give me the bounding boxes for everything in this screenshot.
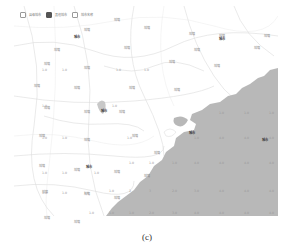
town-label: 城镇 xyxy=(44,62,50,66)
town-label: 城镇 xyxy=(54,48,60,52)
city-label: 城市 xyxy=(219,36,225,41)
sea-grid-value: 1.0 xyxy=(244,111,249,115)
sea-grid-value: 2.0 xyxy=(149,211,154,215)
town-label: 城镇 xyxy=(44,216,50,220)
map-legend: 县级城市 其他城市 城市名称 xyxy=(20,12,95,18)
land-grid-value: 1.0 xyxy=(127,136,132,140)
land-grid-value: 1.0 xyxy=(84,191,89,195)
city-label: 城市 xyxy=(101,108,107,113)
city-label: 城市 xyxy=(189,130,195,135)
map-canvas[interactable] xyxy=(14,6,278,216)
town-label: 城镇 xyxy=(114,196,120,200)
land-grid-value: 1.0 xyxy=(94,171,99,175)
town-label: 城镇 xyxy=(169,60,175,64)
land-grid-value: 1.0 xyxy=(62,171,67,175)
town-label: 城镇 xyxy=(154,151,160,155)
city-label: 城市 xyxy=(74,34,80,39)
town-label: 城镇 xyxy=(84,110,90,114)
sea-grid-value: 4.0 xyxy=(269,189,274,193)
sea-grid-value: 1.0 xyxy=(109,211,114,215)
land-grid-value: 1.0 xyxy=(62,191,67,195)
sea-grid-value: 2.0 xyxy=(172,189,177,193)
sea-grid-value: 4.0 xyxy=(219,211,224,215)
town-label: 城镇 xyxy=(114,18,120,22)
map-geometry xyxy=(14,6,278,216)
sea-grid-value: 3 xyxy=(149,189,151,193)
land-grid-value: 1.0 xyxy=(62,68,67,72)
town-label: 城镇 xyxy=(84,138,90,142)
sea-grid-value: 4.0 xyxy=(194,211,199,215)
land-grid-value: 1.0 xyxy=(42,171,47,175)
figure-caption: (c) xyxy=(0,232,294,242)
sea-grid-value: 3.0 xyxy=(194,189,199,193)
town-label: 城镇 xyxy=(144,26,150,30)
land-grid-value: 1.0 xyxy=(42,104,47,108)
sea-grid-value: 1.0 xyxy=(269,111,274,115)
sea-grid-value: 4.0 xyxy=(269,161,274,165)
sea-grid-value: 1.0 xyxy=(129,161,134,165)
sea-grid-value: 1.0 xyxy=(149,161,154,165)
land-grid-value: 1.0 xyxy=(62,136,67,140)
legend-label-county: 县级城市 xyxy=(29,13,41,17)
sea-grid-value: 4.0 xyxy=(244,211,249,215)
land-grid-value: 1.0 xyxy=(42,136,47,140)
land-grid-value: 1.0 xyxy=(112,104,117,108)
sea-grid-value: 2 xyxy=(129,189,131,193)
sea-area xyxy=(106,68,278,216)
legend-checkbox-name[interactable] xyxy=(72,12,78,18)
sea-grid-value: 4.0 xyxy=(219,161,224,165)
town-label: 城镇 xyxy=(84,66,90,70)
sea-grid-value: 4.0 xyxy=(219,136,224,140)
town-label: 城镇 xyxy=(194,48,200,52)
town-label: 城镇 xyxy=(74,220,80,224)
city-label: 城市 xyxy=(86,164,92,169)
sea-grid-value: 1.0 xyxy=(89,211,94,215)
sea-grid-value: 4.0 xyxy=(269,136,274,140)
town-label: 城镇 xyxy=(264,34,270,38)
sea-grid-value: 3.0 xyxy=(172,211,177,215)
sea-grid-value: 1.0 xyxy=(129,211,134,215)
sea-grid-value: 4.0 xyxy=(244,161,249,165)
land-grid-value: 1.0 xyxy=(42,68,47,72)
town-label: 城镇 xyxy=(39,164,45,168)
land-grid-value: 1.0 xyxy=(144,68,149,72)
legend-label-name: 城市名称 xyxy=(81,13,93,17)
town-label: 城镇 xyxy=(214,64,220,68)
sea-grid-value: 4.0 xyxy=(219,189,224,193)
town-label: 城镇 xyxy=(132,134,138,138)
sea-grid-value: 1.0 xyxy=(194,136,199,140)
peninsula xyxy=(164,129,176,137)
sea-grid-value: 4.0 xyxy=(244,136,249,140)
sea-grid-value: 4.0 xyxy=(269,211,274,215)
land-grid-value: 1.0 xyxy=(42,191,47,195)
sea-grid-value: 4.0 xyxy=(194,161,199,165)
town-label: 城镇 xyxy=(84,28,90,32)
town-label: 城镇 xyxy=(189,32,195,36)
city-label: 城市 xyxy=(262,137,268,142)
legend-checkbox-county[interactable] xyxy=(20,12,26,18)
legend-label-other: 其他城市 xyxy=(55,13,67,17)
town-label: 城镇 xyxy=(124,46,130,50)
sea-grid-value: 1.0 xyxy=(172,161,177,165)
sea-grid-value: 4.0 xyxy=(244,189,249,193)
sea-grid-value: 1.0 xyxy=(219,111,224,115)
bay xyxy=(174,116,189,126)
town-label: 城镇 xyxy=(144,174,150,178)
town-label: 城镇 xyxy=(129,86,135,90)
sea-grid-value: 1.0 xyxy=(109,189,114,193)
town-label: 城镇 xyxy=(254,46,260,50)
legend-checkbox-other[interactable] xyxy=(46,12,52,18)
town-label: 城镇 xyxy=(119,110,125,114)
land-grid-value: 1.0 xyxy=(116,68,121,72)
town-label: 城镇 xyxy=(74,168,80,172)
town-label: 城镇 xyxy=(174,88,180,92)
town-label: 城镇 xyxy=(74,86,80,90)
town-label: 城镇 xyxy=(114,170,120,174)
town-label: 城镇 xyxy=(34,84,40,88)
